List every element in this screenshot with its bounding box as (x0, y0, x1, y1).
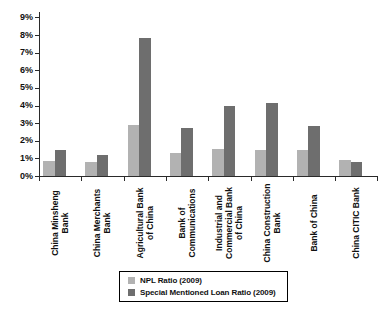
category-label: China CITIC Bank (338, 180, 374, 266)
bar-sml (181, 128, 193, 176)
bar-npl (297, 150, 309, 176)
category-label: Bank of Communications (169, 180, 205, 266)
x-axis-tick (166, 177, 167, 181)
y-axis-tick-label: 0% (7, 172, 33, 181)
y-axis-tick-label: 9% (7, 13, 33, 22)
category-label: China Merchants Bank (84, 180, 120, 266)
y-axis-tick (35, 106, 39, 107)
bar-sml (55, 150, 67, 176)
y-axis-line (39, 12, 40, 177)
legend-swatch-sml-icon (128, 289, 135, 296)
x-axis-tick (335, 177, 336, 181)
category-label: Agricultural Bank of China (127, 180, 163, 266)
legend-item-npl: NPL Ratio (2009) (128, 276, 287, 285)
category-label: China Minsheng Bank (42, 180, 78, 266)
y-axis-tick (35, 70, 39, 71)
y-axis-tick-label: 2% (7, 136, 33, 145)
bar-sml (351, 162, 363, 176)
x-axis-tick (377, 177, 378, 181)
y-axis-tick (35, 17, 39, 18)
y-axis-tick (35, 88, 39, 89)
x-axis-tick (208, 177, 209, 181)
y-axis-tick-label: 6% (7, 66, 33, 75)
legend-item-sml: Special Mentioned Loan Ratio (2009) (128, 288, 287, 297)
bar-sml (97, 155, 109, 176)
y-axis-tick-label: 5% (7, 83, 33, 92)
bar-sml (224, 106, 236, 176)
bar-chart-canvas: 0%1%2%3%4%5%6%7%8%9%China Minsheng BankC… (0, 0, 384, 318)
legend-swatch-npl-icon (128, 277, 135, 284)
legend-label-sml: Special Mentioned Loan Ratio (2009) (140, 288, 276, 297)
bar-npl (212, 149, 224, 176)
x-axis-tick (293, 177, 294, 181)
bar-npl (85, 162, 97, 176)
y-axis-tick (35, 35, 39, 36)
bar-sml (139, 38, 151, 176)
y-axis-tick-label: 8% (7, 31, 33, 40)
y-axis-tick (35, 123, 39, 124)
x-axis-tick (39, 177, 40, 181)
bar-npl (170, 153, 182, 176)
y-axis-tick (35, 53, 39, 54)
y-axis-tick-label: 3% (7, 119, 33, 128)
x-axis-tick (124, 177, 125, 181)
category-label: China Construction Bank (254, 180, 290, 266)
legend-label-npl: NPL Ratio (2009) (140, 276, 202, 285)
category-label: Industrial and Commercial Bank of China (211, 180, 247, 266)
category-label: Bank of China (296, 180, 332, 266)
bar-sml (266, 103, 278, 176)
y-axis-tick-label: 4% (7, 101, 33, 110)
bar-npl (43, 161, 55, 176)
bar-npl (255, 150, 267, 176)
y-axis-tick-label: 7% (7, 48, 33, 57)
bar-sml (308, 126, 320, 176)
bar-npl (128, 125, 140, 176)
y-axis-tick (35, 141, 39, 142)
legend: NPL Ratio (2009) Special Mentioned Loan … (119, 271, 288, 302)
x-axis-tick (251, 177, 252, 181)
y-axis-tick-label: 1% (7, 154, 33, 163)
x-axis-tick (81, 177, 82, 181)
bar-npl (339, 160, 351, 176)
y-axis-tick (35, 158, 39, 159)
